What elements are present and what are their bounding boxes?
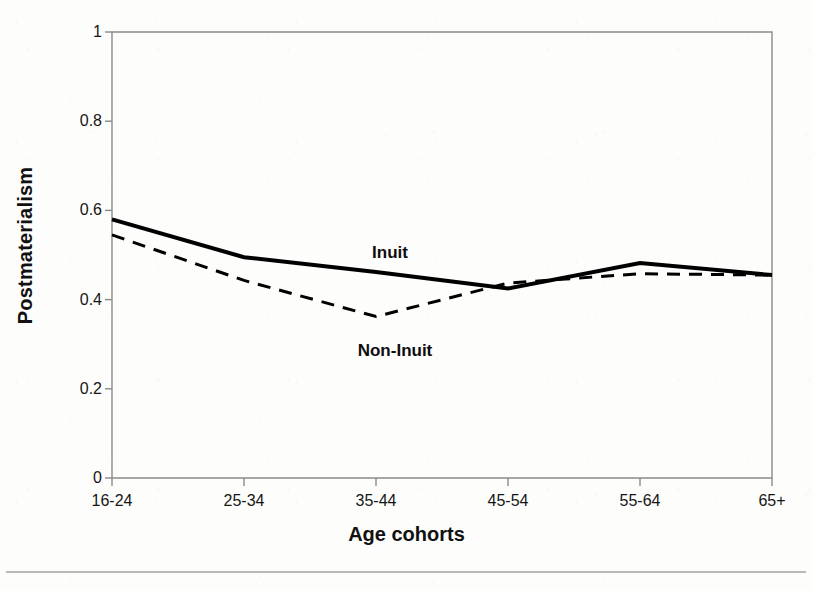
y-tick-label: 0.8 [40, 112, 102, 130]
y-tick-label: 0.4 [40, 291, 102, 309]
data-series-layer [112, 219, 772, 316]
x-tick-label: 45-54 [488, 492, 529, 510]
series-label-non-inuit: Non-Inuit [358, 341, 433, 361]
x-tick-label: 55-64 [620, 492, 661, 510]
y-tick-label: 0 [40, 469, 102, 487]
x-tick-label: 25-34 [224, 492, 265, 510]
series-line-inuit [112, 219, 772, 288]
series-label-inuit: Inuit [372, 243, 408, 263]
page-divider-rule [6, 571, 806, 573]
y-tick-label: 1 [40, 23, 102, 41]
x-tick-label: 65+ [758, 492, 785, 510]
axis-frame [112, 32, 772, 478]
postmaterialism-by-age-cohort-chart: Postmaterialism Age cohorts 00.20.40.60.… [0, 0, 813, 590]
x-axis-title: Age cohorts [0, 523, 813, 546]
x-tick-label: 35-44 [356, 492, 397, 510]
y-axis-tick-marks [105, 32, 112, 478]
x-axis-tick-marks [112, 478, 772, 486]
y-tick-label: 0.6 [40, 201, 102, 219]
x-tick-label: 16-24 [92, 492, 133, 510]
y-tick-label: 0.2 [40, 380, 102, 398]
